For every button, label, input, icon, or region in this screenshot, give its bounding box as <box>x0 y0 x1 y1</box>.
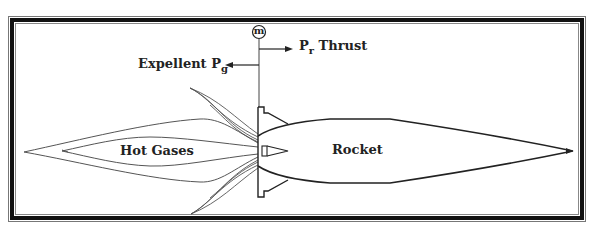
rocket-nose-tip <box>566 148 573 154</box>
expellent-symbol: P <box>211 56 221 71</box>
upper-plume-feathers <box>190 88 258 142</box>
mass-flow-label: m <box>253 25 265 36</box>
rocket-label: Rocket <box>332 142 383 157</box>
expellent-word: Expellent <box>138 56 207 71</box>
expellent-subscript: g <box>221 63 228 74</box>
rocket-body <box>258 119 573 183</box>
thrust-label: Pr Thrust <box>299 38 367 53</box>
diagram-drawing <box>0 0 597 231</box>
diagram-canvas: m Pr Thrust Expellent Pg Hot Gases Rocke… <box>0 0 597 231</box>
thrust-subscript: r <box>309 45 314 56</box>
thrust-arrow <box>259 46 293 52</box>
expellent-label: Expellent Pg <box>138 56 228 71</box>
lower-plume-feathers <box>191 160 258 214</box>
thrust-word: Thrust <box>319 38 368 53</box>
nozzle-cone <box>262 146 288 156</box>
thrust-symbol: P <box>299 38 309 53</box>
expellent-arrow <box>225 62 259 68</box>
hot-gases-label: Hot Gases <box>120 143 194 158</box>
